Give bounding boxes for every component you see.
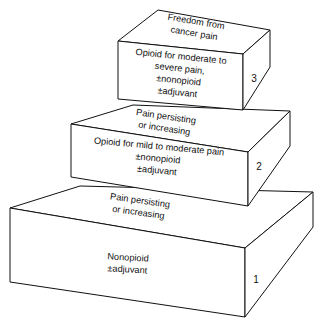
who-analgesic-ladder-figure: Freedom from cancer pain Opioid for mode… bbox=[0, 0, 327, 328]
step-3-number: 3 bbox=[251, 73, 257, 84]
step-2-number: 2 bbox=[256, 161, 262, 172]
step-1-number: 1 bbox=[253, 274, 259, 285]
ladder-diagram-svg: Freedom from cancer pain Opioid for mode… bbox=[0, 0, 327, 328]
